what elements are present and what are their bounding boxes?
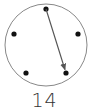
diagram-label: 14 [0,89,89,111]
outer-circle [5,4,87,86]
point-dot [63,70,68,75]
point-dot [11,31,16,36]
point-dot [75,31,80,36]
arrow [46,9,65,70]
point-dot [23,70,28,75]
